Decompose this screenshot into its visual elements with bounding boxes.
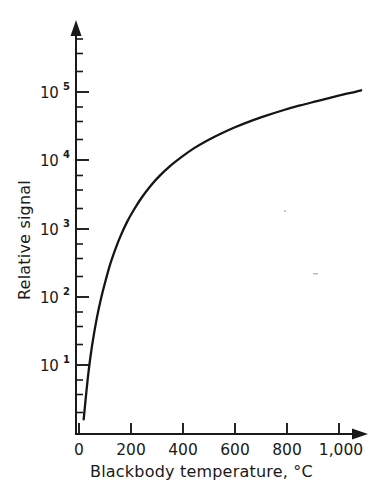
y-axis-arrow-icon [71,20,82,36]
y-tick-label-1e5-exponent: 5 [63,81,70,92]
y-axis [71,20,82,435]
x-tick-marks [79,423,339,434]
x-tick-label-1000: 1,000 [319,441,363,459]
x-tick-labels: 0 200 400 600 800 1,000 [74,441,363,459]
y-tick-label-1e3-mantissa: 10 [40,221,59,239]
x-tick-label-0: 0 [74,441,84,459]
x-axis [76,429,368,440]
y-tick-label-1e4-mantissa: 10 [40,152,59,170]
y-tick-label-1e1-exponent: 1 [63,354,70,365]
y-tick-label-1e3-exponent: 3 [63,218,70,229]
chart-figure: 10 5 10 4 10 3 10 2 10 1 0 200 400 600 [0,0,392,501]
x-tick-label-800: 800 [272,441,302,459]
x-tick-label-200: 200 [116,441,146,459]
y-tick-label-1e5-mantissa: 10 [40,84,59,102]
x-axis-title: Blackbody temperature, °C [90,462,313,481]
y-tick-label-1e2-exponent: 2 [63,286,70,297]
blackbody-signal-chart: 10 5 10 4 10 3 10 2 10 1 0 200 400 600 [0,0,392,501]
x-tick-label-600: 600 [220,441,250,459]
blackbody-signal-curve [84,90,361,419]
y-axis-title: Relative signal [15,180,34,300]
x-tick-label-400: 400 [168,441,198,459]
y-tick-label-1e4-exponent: 4 [63,149,70,160]
y-tick-label-1e2-mantissa: 10 [40,289,59,307]
x-axis-arrow-icon [352,429,368,440]
scan-speck [313,273,318,274]
y-tick-labels: 10 5 10 4 10 3 10 2 10 1 [40,81,70,375]
y-tick-label-1e1-mantissa: 10 [40,357,59,375]
scan-speck [284,210,286,212]
y-tick-marks [76,39,89,413]
